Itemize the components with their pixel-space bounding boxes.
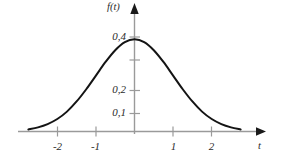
y-tick-label-0-4: 0,4 bbox=[96, 31, 126, 42]
gaussian-curve-figure: 0,4 0,2 0,1 -2 -1 1 2 f(t) t bbox=[0, 0, 285, 164]
x-tick-label-1: 1 bbox=[159, 141, 188, 152]
y-tick-label-0-1: 0,1 bbox=[96, 107, 126, 118]
x-tick-label-minus1: -1 bbox=[81, 141, 110, 152]
x-axis-arrow-icon bbox=[256, 127, 266, 135]
x-tick-label-2: 2 bbox=[197, 141, 226, 152]
plot-area bbox=[0, 0, 285, 164]
x-tick-label-minus2: -2 bbox=[43, 141, 72, 152]
y-tick-label-0-2: 0,2 bbox=[96, 84, 126, 95]
y-axis-label: f(t) bbox=[107, 2, 120, 13]
x-axis-label: t bbox=[258, 141, 261, 152]
y-axis-arrow-icon bbox=[130, 3, 138, 14]
